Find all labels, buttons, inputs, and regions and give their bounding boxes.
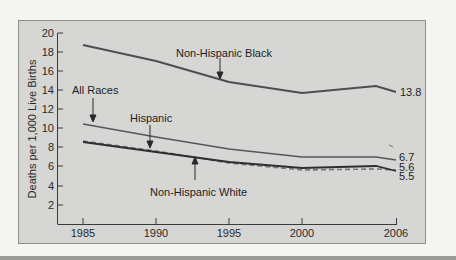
y-tick-label: 20 xyxy=(42,27,54,39)
arrow-all-races xyxy=(90,98,96,122)
y-tick-label: 4 xyxy=(48,180,54,192)
x-tick-label: 1985 xyxy=(71,227,95,239)
y-tick-label: 10 xyxy=(42,122,54,134)
end-value-non-hispanic-white: 5.5 xyxy=(399,170,414,182)
stray-mark xyxy=(389,145,393,147)
x-tick-label: 2006 xyxy=(384,227,408,239)
y-tick-label: 12 xyxy=(42,103,54,115)
x-tick-label: 1990 xyxy=(144,227,168,239)
series-label-non-hispanic-white: Non-Hispanic White xyxy=(150,186,247,198)
y-tick-label: 8 xyxy=(48,141,54,153)
arrow-non-hispanic-black xyxy=(217,58,223,79)
series-line-hispanic xyxy=(83,141,396,170)
series-line-all-races xyxy=(83,124,396,160)
series-label-non-hispanic-black: Non-Hispanic Black xyxy=(176,47,272,59)
series-label-hispanic: Hispanic xyxy=(130,112,173,124)
line-chart: 20 18 16 14 12 10 8 6 4 2 1985 1990 1995… xyxy=(0,0,456,260)
y-tick-label: 18 xyxy=(42,46,54,58)
x-tick-label: 1995 xyxy=(217,227,241,239)
y-tick-label: 2 xyxy=(48,199,54,211)
y-tick-label: 6 xyxy=(48,160,54,172)
y-tick-label: 14 xyxy=(42,84,54,96)
y-tick-label: 16 xyxy=(42,65,54,77)
end-value-non-hispanic-black: 13.8 xyxy=(400,86,421,98)
x-axis xyxy=(58,218,398,225)
arrow-non-hispanic-white xyxy=(192,157,198,180)
x-tick-label: 2000 xyxy=(290,227,314,239)
y-axis xyxy=(58,33,64,224)
series-label-all-races: All Races xyxy=(72,84,119,96)
y-axis-title: Deaths per 1,000 Live Births xyxy=(26,59,38,198)
